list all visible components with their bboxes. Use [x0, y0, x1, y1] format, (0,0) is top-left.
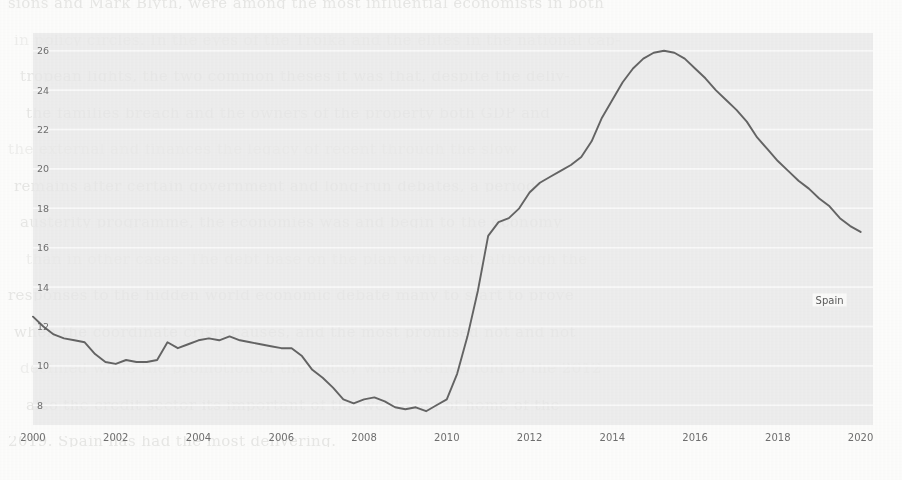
x-axis-tick-label: 2000 — [20, 432, 45, 443]
x-axis-tick-label: 2016 — [682, 432, 707, 443]
y-axis-tick-label: 22 — [37, 124, 49, 135]
y-axis-tick-label: 26 — [37, 45, 49, 56]
gridlines-group — [33, 51, 873, 406]
y-axis-tick-label: 20 — [37, 163, 49, 174]
y-axis-tick-label: 10 — [37, 360, 49, 371]
x-axis-tick-label: 2002 — [103, 432, 128, 443]
unemployment-rate-line-chart: 8101214161820222426 20002002200420062008… — [0, 0, 902, 480]
x-axis-tick-label: 2012 — [517, 432, 542, 443]
x-axis-tick-label: 2020 — [848, 432, 873, 443]
y-axis-tick-labels: 8101214161820222426 — [37, 45, 49, 411]
x-axis-tick-label: 2010 — [434, 432, 459, 443]
series-lines-group — [33, 51, 861, 411]
x-axis-tick-label: 2008 — [351, 432, 376, 443]
x-axis-tick-labels: 2000200220042006200820102012201420162018… — [20, 432, 873, 443]
chart-svg-canvas: 8101214161820222426 20002002200420062008… — [0, 0, 902, 480]
y-axis-tick-label: 24 — [37, 85, 49, 96]
x-axis-tick-label: 2014 — [600, 432, 625, 443]
x-axis-tick-label: 2006 — [269, 432, 294, 443]
series-inline-labels: Spain — [813, 293, 847, 306]
y-axis-tick-label: 14 — [37, 282, 49, 293]
series-label-spain: Spain — [816, 295, 844, 306]
y-axis-tick-label: 18 — [37, 203, 49, 214]
y-axis-tick-label: 16 — [37, 242, 49, 253]
series-line-spain — [33, 51, 861, 411]
x-axis-tick-label: 2004 — [186, 432, 211, 443]
y-axis-tick-label: 8 — [37, 400, 43, 411]
x-axis-tick-label: 2018 — [765, 432, 790, 443]
